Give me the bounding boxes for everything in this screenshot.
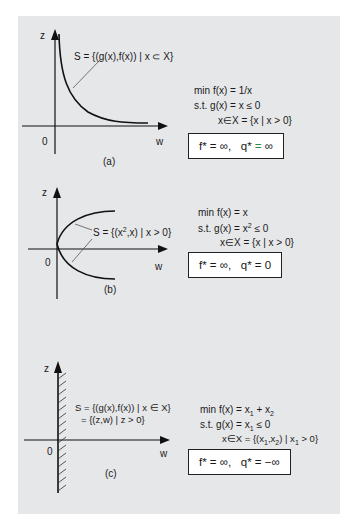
plot-b	[18, 181, 340, 351]
z-axis-label: z	[44, 363, 49, 375]
w-axis-arrow-icon	[160, 436, 170, 444]
z-axis-label: z	[42, 187, 47, 199]
caption-c: (c)	[105, 468, 117, 480]
parabola-curve	[57, 211, 115, 279]
set-label-line2: = {(z,w) | z > 0}	[81, 414, 145, 426]
constraint: s.t. g(x) = x ≤ 0	[194, 99, 260, 112]
q-star-val: ∞	[265, 140, 273, 152]
z-axis-arrow-icon	[53, 187, 61, 198]
z-axis-arrow-icon	[51, 29, 59, 40]
f-star: f* = ∞,	[199, 456, 231, 468]
caption-a: (a)	[103, 156, 115, 168]
f-star: f* = ∞,	[199, 259, 231, 271]
z-axis-label: z	[40, 30, 45, 42]
objective: min f(x) = x	[198, 206, 248, 219]
plot-a	[18, 16, 340, 181]
set-label-line1: S = {(g(x),f(x)) | x ∈ X}	[75, 402, 171, 414]
hyperbola-curve	[59, 34, 148, 123]
caption-b: (b)	[104, 284, 116, 296]
domain: x∈X = {(x1,x2) | x1 > 0}	[222, 432, 318, 445]
w-axis-label: w	[155, 261, 162, 273]
domain: x∈X = {x | x > 0}	[218, 114, 292, 127]
q-star: q* = −∞	[241, 456, 280, 468]
constraint: s.t. g(x) = x2 ≤ 0	[198, 222, 268, 235]
result-box-b: f* = ∞, q* = 0	[188, 252, 282, 278]
w-axis-arrow-icon	[158, 122, 168, 130]
domain: x∈X = {x | x > 0}	[220, 236, 294, 249]
origin-label: 0	[45, 257, 51, 269]
q-star-eq: =	[255, 140, 262, 152]
q-star-lhs: q*	[241, 140, 252, 152]
subfigure-a: z w 0 S = {(g(x),f(x)) | x ⊂ X} (a) min …	[18, 16, 340, 181]
subfigure-c: z w 0 S = {(g(x),f(x)) | x ∈ X} = {(z,w)…	[18, 351, 340, 514]
origin-label: 0	[47, 446, 53, 458]
w-axis-label: w	[160, 448, 167, 460]
f-star: f* = ∞,	[199, 140, 231, 152]
q-star: q* = 0	[241, 259, 271, 271]
objective: min f(x) = x1 + x2	[200, 403, 274, 416]
figure-panel: z w 0 S = {(g(x),f(x)) | x ⊂ X} (a) min …	[18, 16, 340, 514]
w-axis-label: w	[156, 136, 163, 148]
set-label: S = {(g(x),f(x)) | x ⊂ X}	[74, 51, 173, 63]
w-axis-arrow-icon	[158, 245, 168, 253]
objective: min f(x) = 1/x	[194, 84, 252, 97]
set-label: S = {(x2,x) | x > 0}	[93, 227, 171, 239]
constraint: s.t. g(x) = x1 ≤ 0	[200, 418, 270, 431]
z-axis-arrow-icon	[54, 361, 62, 373]
subfigure-b: z w 0 S = {(x2,x) | x > 0} (b) min f(x) …	[18, 181, 340, 351]
origin-label: 0	[42, 136, 48, 148]
result-box-c: f* = ∞, q* = −∞	[188, 449, 291, 475]
result-box-a: f* = ∞, q* = ∞	[188, 133, 284, 159]
hatching	[58, 373, 66, 491]
